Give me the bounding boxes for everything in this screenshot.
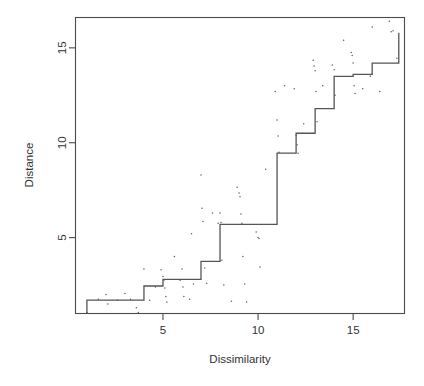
- x-axis-title: Dissimilarity: [209, 353, 271, 365]
- scatter-point: [223, 284, 225, 286]
- scatter-point: [354, 93, 356, 95]
- scatter-point: [371, 26, 373, 28]
- scatter-point: [396, 58, 398, 60]
- scatter-point: [239, 196, 241, 198]
- scatter-point: [353, 85, 355, 87]
- scatter-point: [314, 70, 316, 72]
- scatter-point: [164, 287, 166, 289]
- scatter-point: [313, 65, 315, 67]
- scatter-point: [212, 212, 214, 214]
- scatter-point: [392, 30, 394, 32]
- scatter-point: [351, 55, 353, 57]
- shepard-step-plot: 51015 51015 Dissimilarity Distance: [0, 0, 424, 386]
- scatter-point: [143, 268, 145, 270]
- scatter-point: [240, 213, 242, 215]
- scatter-point: [193, 283, 195, 285]
- scatter-point: [258, 238, 260, 240]
- scatter-point: [231, 300, 233, 302]
- scatter-point: [276, 119, 278, 121]
- y-tick-label: 5: [57, 234, 69, 240]
- scatter-point: [331, 64, 333, 66]
- scatter-point: [217, 223, 219, 225]
- scatter-point: [162, 276, 164, 278]
- scatter-point: [274, 91, 276, 93]
- scatter-point: [242, 256, 244, 258]
- scatter-point: [315, 91, 317, 93]
- scatter-point: [220, 222, 222, 224]
- scatter-point: [166, 301, 168, 303]
- scatter-point: [322, 85, 324, 87]
- scatter-point: [351, 52, 353, 54]
- scatter-point: [183, 296, 185, 298]
- scatter-point: [312, 59, 314, 61]
- scatter-point: [255, 231, 257, 233]
- scatter-point: [181, 268, 183, 270]
- scatter-point: [362, 88, 364, 90]
- y-tick-label: 15: [57, 41, 69, 54]
- scatter-point: [390, 31, 392, 33]
- scatter-point: [238, 192, 240, 194]
- scatter-point: [200, 174, 202, 176]
- scatter-point: [165, 296, 167, 298]
- scatter-point: [389, 21, 391, 23]
- scatter-point: [297, 152, 299, 154]
- scatter-point: [204, 267, 206, 269]
- x-tick-label: 10: [252, 324, 265, 336]
- y-axis-title: Distance: [23, 143, 35, 188]
- scatter-point: [191, 233, 193, 235]
- scatter-point: [138, 312, 140, 314]
- scatter-point: [343, 40, 345, 42]
- scatter-point: [370, 76, 372, 78]
- scatter-point: [160, 269, 162, 271]
- scatter-point: [379, 91, 381, 93]
- scatter-point: [149, 299, 151, 301]
- scatter-point: [107, 303, 109, 305]
- x-tick-label: 5: [160, 324, 166, 336]
- scatter-point: [303, 123, 305, 125]
- scatter-point: [201, 207, 203, 209]
- figure-background: [0, 0, 424, 386]
- scatter-point: [277, 135, 279, 137]
- scatter-point: [219, 212, 221, 214]
- scatter-point: [105, 294, 107, 296]
- scatter-point: [259, 266, 261, 268]
- scatter-point: [221, 260, 223, 262]
- y-tick-label: 10: [57, 136, 69, 149]
- scatter-point: [124, 293, 126, 295]
- scatter-point: [333, 69, 335, 71]
- scatter-point: [316, 121, 318, 123]
- scatter-point: [246, 301, 248, 303]
- scatter-point: [174, 256, 176, 258]
- scatter-point: [136, 307, 138, 309]
- scatter-point: [265, 169, 267, 171]
- scatter-point: [189, 299, 191, 301]
- chart-figure: 51015 51015 Dissimilarity Distance: [0, 0, 424, 386]
- scatter-point: [182, 286, 184, 288]
- scatter-point: [352, 62, 354, 64]
- scatter-point: [284, 85, 286, 87]
- scatter-point: [293, 88, 295, 90]
- x-tick-label: 15: [347, 324, 360, 336]
- scatter-point: [206, 282, 208, 284]
- scatter-point: [236, 187, 238, 189]
- scatter-point: [244, 283, 246, 285]
- scatter-point: [202, 221, 204, 223]
